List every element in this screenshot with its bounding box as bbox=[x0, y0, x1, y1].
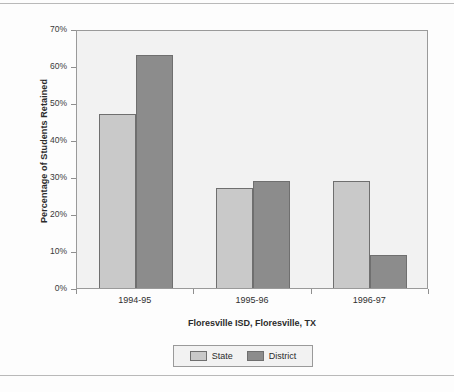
legend-item-district[interactable]: District bbox=[247, 351, 297, 361]
legend-item-label: District bbox=[269, 351, 297, 361]
x-axis-tick-label: 1994-95 bbox=[75, 295, 195, 305]
y-axis-tick-label: 70% bbox=[50, 24, 67, 34]
y-axis-title: Percentage of Students Retained bbox=[39, 31, 49, 271]
bar-district-1996-97 bbox=[370, 255, 407, 288]
bar-state-1995-96 bbox=[216, 188, 253, 288]
y-axis-tick-label: 0% bbox=[55, 283, 67, 293]
y-axis-tick-label: 60% bbox=[50, 61, 67, 71]
x-axis-tick-mark bbox=[76, 289, 77, 294]
x-axis-tick-mark bbox=[428, 289, 429, 294]
bottom-divider-rule bbox=[0, 375, 454, 376]
y-axis-tick-label: 50% bbox=[50, 98, 67, 108]
bar-chart-figure: Percentage of Students Retained 0%10%20%… bbox=[0, 4, 454, 374]
y-axis-tick-label: 30% bbox=[50, 172, 67, 182]
bar-group bbox=[77, 31, 194, 288]
x-axis-title: Floresville ISD, Floresville, TX bbox=[76, 318, 428, 328]
legend-swatch-icon bbox=[247, 351, 264, 361]
plot-area bbox=[76, 30, 428, 289]
bar-group bbox=[194, 31, 311, 288]
bar-series-container bbox=[77, 31, 427, 288]
bar-district-1995-96 bbox=[253, 181, 290, 288]
y-axis-tick-label: 10% bbox=[50, 246, 67, 256]
x-axis-tick-mark bbox=[311, 289, 312, 294]
x-axis-tick-mark bbox=[193, 289, 194, 294]
bar-state-1994-95 bbox=[99, 114, 136, 288]
chart-legend: StateDistrict bbox=[173, 345, 313, 367]
x-axis-tick-label: 1996-97 bbox=[309, 295, 429, 305]
bar-group bbox=[312, 31, 429, 288]
legend-item-state[interactable]: State bbox=[190, 351, 233, 361]
legend-swatch-icon bbox=[190, 351, 207, 361]
legend-item-label: State bbox=[212, 351, 233, 361]
bar-district-1994-95 bbox=[136, 55, 173, 288]
y-axis-tick-label: 40% bbox=[50, 135, 67, 145]
bar-state-1996-97 bbox=[333, 181, 370, 288]
y-axis-tick-label: 20% bbox=[50, 209, 67, 219]
x-axis-tick-label: 1995-96 bbox=[192, 295, 312, 305]
